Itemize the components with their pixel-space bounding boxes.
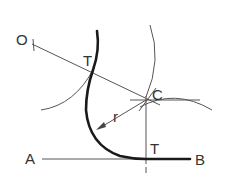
label-t-upper: T (83, 52, 92, 69)
label-c: C (152, 86, 163, 103)
label-a: A (25, 150, 35, 167)
label-o: O (16, 31, 28, 48)
cross-o (33, 39, 34, 51)
radius-arrowhead (96, 122, 106, 130)
label-b: B (195, 151, 205, 168)
construction-diagram: O T C r A T B (0, 0, 228, 179)
radius-line (98, 100, 146, 129)
label-t-lower: T (150, 140, 159, 157)
label-r: r (113, 108, 118, 125)
